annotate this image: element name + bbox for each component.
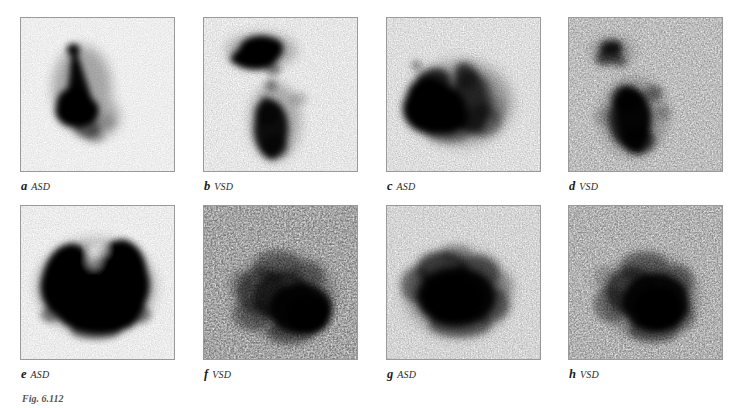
panel-d-scan-image bbox=[569, 18, 722, 171]
panel-c-scan-image bbox=[387, 18, 540, 171]
panel-h: hVSD bbox=[568, 205, 723, 360]
panel-d: dVSD bbox=[568, 17, 723, 172]
panel-d-diagnosis: VSD bbox=[579, 181, 598, 192]
panel-h-letter: h bbox=[569, 367, 576, 381]
figure-caption: Fig. 6.112 bbox=[22, 393, 63, 404]
panel-b-frame bbox=[203, 17, 358, 172]
panel-b-caption: bVSD bbox=[204, 177, 233, 193]
panel-a-caption: aASD bbox=[21, 177, 50, 193]
panel-a-scan-image bbox=[21, 18, 174, 171]
panel-b-scan-image bbox=[204, 18, 357, 171]
panel-a-frame bbox=[20, 17, 175, 172]
panel-b-letter: b bbox=[204, 179, 210, 193]
panel-e-diagnosis: ASD bbox=[31, 369, 50, 380]
panel-b: bVSD bbox=[203, 17, 358, 172]
panel-g-diagnosis: ASD bbox=[397, 369, 416, 380]
panel-a: aASD bbox=[20, 17, 175, 172]
panel-grid: aASD bbox=[20, 17, 725, 382]
panel-c-letter: c bbox=[387, 179, 393, 193]
panel-e-scan-image bbox=[21, 206, 174, 359]
panel-e-letter: e bbox=[21, 367, 27, 381]
panel-c-diagnosis: ASD bbox=[397, 181, 416, 192]
panel-d-frame bbox=[568, 17, 723, 172]
panel-g-frame bbox=[386, 205, 541, 360]
panel-d-letter: d bbox=[569, 179, 575, 193]
scintigraphy-figure: aASD bbox=[0, 0, 745, 408]
panel-g-letter: g bbox=[387, 367, 393, 381]
panel-d-caption: dVSD bbox=[569, 177, 598, 193]
panel-c: cASD bbox=[386, 17, 541, 172]
panel-g: gASD bbox=[386, 205, 541, 360]
panel-b-diagnosis: VSD bbox=[214, 181, 233, 192]
panel-c-frame bbox=[386, 17, 541, 172]
panel-h-scan-image bbox=[569, 206, 722, 359]
panel-f-scan-image bbox=[204, 206, 357, 359]
panel-f-diagnosis: VSD bbox=[212, 369, 231, 380]
panel-f-caption: fVSD bbox=[204, 365, 231, 381]
panel-g-scan-image bbox=[387, 206, 540, 359]
panel-e: eASD bbox=[20, 205, 175, 360]
panel-a-diagnosis: ASD bbox=[31, 181, 50, 192]
panel-h-frame bbox=[568, 205, 723, 360]
panel-f: fVSD bbox=[203, 205, 358, 360]
panel-h-caption: hVSD bbox=[569, 365, 599, 381]
panel-f-frame bbox=[203, 205, 358, 360]
panel-e-caption: eASD bbox=[21, 365, 50, 381]
panel-f-letter: f bbox=[204, 367, 208, 381]
panel-e-frame bbox=[20, 205, 175, 360]
panel-g-caption: gASD bbox=[387, 365, 416, 381]
panel-h-diagnosis: VSD bbox=[580, 369, 599, 380]
panel-a-letter: a bbox=[21, 179, 27, 193]
panel-c-caption: cASD bbox=[387, 177, 416, 193]
